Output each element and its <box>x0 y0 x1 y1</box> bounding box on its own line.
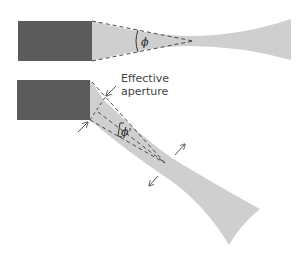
bottom-panel: ϕ' Effective aperture <box>17 72 260 245</box>
top-angle-label: ϕ <box>141 36 149 49</box>
beam-divergence-diagram: ϕ ϕ' Effective aperture <box>0 0 308 259</box>
beam-width-arrow-upper <box>175 144 185 155</box>
aperture-arrow-lower <box>78 122 88 132</box>
effective-aperture-label-line2: aperture <box>121 85 169 98</box>
bottom-beam <box>90 80 260 245</box>
top-emitter <box>18 21 92 61</box>
bottom-emitter <box>17 80 90 120</box>
top-panel: ϕ <box>18 19 291 61</box>
aperture-arrow-upper <box>106 86 116 96</box>
bottom-angle-label: ϕ' <box>121 126 132 139</box>
beam-width-arrow-lower <box>149 176 158 186</box>
effective-aperture-label-line1: Effective <box>121 72 169 85</box>
